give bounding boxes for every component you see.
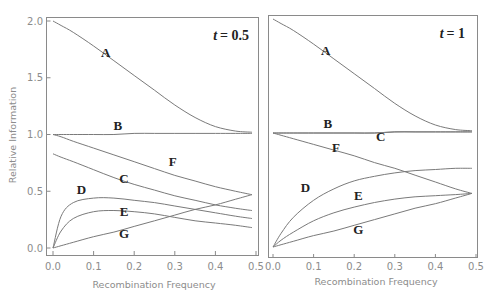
series-labels-right: ABCDEFG bbox=[301, 43, 386, 237]
series-label-a: A bbox=[321, 43, 331, 58]
series-label-e: E bbox=[354, 188, 363, 203]
x-tick-label: 0.5 bbox=[248, 261, 264, 272]
series-label-b: B bbox=[323, 116, 332, 131]
curves-right bbox=[273, 19, 472, 247]
y-tick-label: 1.5 bbox=[27, 72, 43, 83]
y-axis-title: Relative Information bbox=[7, 87, 18, 183]
series-label-d: D bbox=[301, 180, 310, 195]
x-axis-right: 0.00.10.20.30.40.5 bbox=[265, 254, 484, 272]
x-axis-title-left: Recombination Frequency bbox=[92, 279, 215, 290]
series-label-a: A bbox=[101, 45, 111, 60]
x-tick-label: 0.4 bbox=[427, 261, 443, 272]
series-label-f: F bbox=[169, 154, 177, 169]
series-label-g: G bbox=[353, 222, 363, 237]
x-tick-label: 0.3 bbox=[387, 261, 403, 272]
x-tick-label: 0.1 bbox=[306, 261, 322, 272]
curve-c bbox=[273, 132, 472, 133]
x-tick-label: 0.0 bbox=[265, 261, 281, 272]
x-axis-left: 0.00.10.20.30.40.5 bbox=[45, 251, 264, 272]
x-tick-label: 0.5 bbox=[468, 261, 484, 272]
curve-d bbox=[53, 198, 252, 248]
series-label-e: E bbox=[120, 204, 129, 219]
panel-title-left: t= 0.5 bbox=[213, 28, 249, 43]
y-tick-label: 0.5 bbox=[27, 186, 43, 197]
x-tick-label: 0.2 bbox=[346, 261, 362, 272]
y-tick-label: 0.0 bbox=[27, 243, 43, 254]
series-label-d: D bbox=[77, 182, 86, 197]
x-tick-label: 0.4 bbox=[207, 261, 223, 272]
x-tick-label: 0.1 bbox=[86, 261, 102, 272]
panel-right: 0.00.10.20.30.40.5 ABCDEFG t= 1 Recombin… bbox=[265, 16, 484, 288]
chart-figure: 0.00.51.01.52.0 0.00.10.20.30.40.5 ABCDE… bbox=[0, 0, 494, 296]
series-labels-left: ABCDEFG bbox=[77, 45, 177, 240]
series-label-b: B bbox=[114, 118, 123, 133]
x-axis-title-right: Recombination Frequency bbox=[314, 276, 437, 287]
curve-e bbox=[53, 210, 252, 248]
plot-frame-left bbox=[47, 18, 259, 256]
panel-title-right: t= 1 bbox=[440, 26, 465, 41]
panel-left: 0.00.51.01.52.0 0.00.10.20.30.40.5 ABCDE… bbox=[7, 16, 264, 291]
y-tick-label: 1.0 bbox=[27, 129, 43, 140]
plot-frame-right bbox=[269, 16, 478, 258]
x-tick-label: 0.3 bbox=[167, 261, 183, 272]
y-tick-label: 2.0 bbox=[27, 16, 43, 27]
curves-left bbox=[53, 21, 252, 248]
series-label-g: G bbox=[119, 226, 129, 241]
x-tick-label: 0.0 bbox=[45, 261, 61, 272]
curve-g bbox=[273, 193, 472, 247]
series-label-c: C bbox=[376, 129, 385, 144]
series-label-f: F bbox=[332, 140, 340, 155]
x-tick-label: 0.2 bbox=[126, 261, 142, 272]
curve-b bbox=[53, 133, 252, 134]
series-label-c: C bbox=[119, 171, 128, 186]
